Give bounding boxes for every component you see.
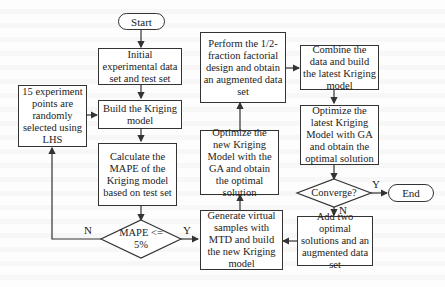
lhs-sampling-label: 15 experiment points are randomly select… (21, 86, 84, 146)
mape-no-label: N (84, 224, 92, 236)
start-terminal: Start (118, 13, 165, 30)
optimize-latest-kriging-box: Optimize the latest Kriging Model with G… (300, 105, 379, 165)
generate-samples-label: Generate virtual samples with MTD and bu… (203, 210, 280, 270)
add-solutions-label: Add two optimal solutions and an augment… (300, 211, 370, 271)
lhs-sampling-box: 15 experiment points are randomly select… (18, 85, 87, 147)
combine-data-box: Combine the data and build the latest Kr… (300, 45, 379, 90)
mape-decision-label: MAPE <= 5% (111, 227, 171, 251)
calculate-mape-box: Calculate the MAPE of the Kriging model … (98, 143, 177, 206)
mape-yes-label: Y (183, 224, 191, 236)
add-solutions-box: Add two optimal solutions and an augment… (297, 216, 373, 266)
initial-data-label: Initial experimental data set and test s… (101, 49, 179, 85)
optimize-latest-kriging-label: Optimize the latest Kriging Model with G… (303, 105, 376, 165)
calculate-mape-label: Calculate the MAPE of the Kriging model … (101, 151, 174, 199)
optimize-new-kriging-label: Optimize the new Kriging Model with the … (203, 127, 276, 199)
start-label: Start (131, 16, 152, 28)
optimize-new-kriging-box: Optimize the new Kriging Model with the … (200, 130, 279, 195)
build-kriging-box: Build the Kriging model (98, 100, 182, 129)
end-terminal: End (388, 184, 434, 202)
generate-samples-box: Generate virtual samples with MTD and bu… (200, 210, 283, 270)
fractional-design-label: Perform the 1/2-fraction factorial desig… (203, 38, 283, 98)
end-label: End (402, 187, 420, 199)
combine-data-label: Combine the data and build the latest Kr… (303, 44, 376, 92)
build-kriging-label: Build the Kriging model (101, 103, 179, 127)
converge-decision-label: Converge? (304, 187, 364, 199)
fractional-design-box: Perform the 1/2-fraction factorial desig… (200, 32, 286, 103)
initial-data-box: Initial experimental data set and test s… (98, 48, 182, 85)
converge-yes-label: Y (372, 178, 380, 190)
